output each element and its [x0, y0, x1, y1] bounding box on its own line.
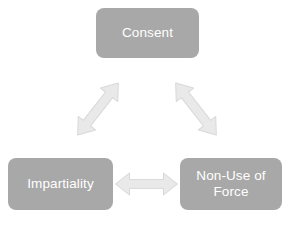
node-consent[interactable]: Consent	[96, 8, 199, 58]
arrow-consent-nonuse	[167, 76, 225, 142]
node-impartiality[interactable]: Impartiality	[8, 158, 113, 210]
arrow-consent-impartiality	[69, 76, 127, 142]
node-consent-label: Consent	[122, 25, 173, 41]
triangle-diagram: Consent Impartiality Non-Use of Force	[0, 0, 294, 228]
node-non-use-of-force[interactable]: Non-Use of Force	[180, 158, 282, 210]
arrow-impartiality-nonuse	[116, 173, 178, 195]
node-impartiality-label: Impartiality	[27, 176, 93, 192]
node-non-use-of-force-label: Non-Use of Force	[196, 168, 265, 200]
